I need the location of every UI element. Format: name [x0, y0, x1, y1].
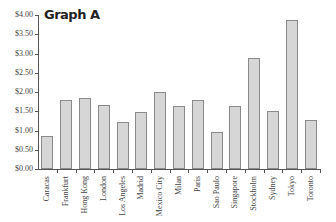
bar-sao-paulo [211, 132, 223, 169]
y-tick [35, 15, 39, 16]
bar-hong-kong [79, 98, 91, 169]
x-tick [245, 169, 246, 173]
y-tick [35, 111, 39, 112]
y-tick [35, 169, 39, 170]
x-tick [320, 169, 321, 173]
x-tick-label: Toronto [306, 176, 315, 220]
x-tick [207, 169, 208, 173]
y-tick [35, 73, 39, 74]
x-tick [188, 169, 189, 173]
y-tick [35, 34, 39, 35]
x-tick [76, 169, 77, 173]
bar-tokyo [286, 20, 298, 169]
y-tick-label: $2.50 [0, 69, 33, 77]
chart-title: Graph A [44, 7, 100, 22]
bar-sydney [267, 111, 279, 169]
bar-london [98, 105, 110, 169]
bar-toronto [305, 120, 317, 169]
x-tick [282, 169, 283, 173]
x-tick [113, 169, 114, 173]
y-tick-label: $1.50 [0, 107, 33, 115]
x-tick-label: Sydney [268, 176, 277, 220]
x-tick-label: Tokyo [287, 176, 296, 220]
y-tick [35, 92, 39, 93]
x-tick-label: Mexico City [155, 176, 164, 220]
y-tick-label: $0.50 [0, 146, 33, 154]
x-tick-label: Singapore [230, 176, 239, 220]
y-tick-label: $3.00 [0, 50, 33, 58]
y-tick-label: $0.00 [0, 165, 33, 173]
x-tick-label: Caracas [42, 176, 51, 220]
bar-milan [173, 106, 185, 169]
bar-frankfurt [60, 100, 72, 169]
x-tick-label: London [99, 176, 108, 220]
x-tick-label: Madrid [136, 176, 145, 220]
x-tick [226, 169, 227, 173]
x-tick-label: Frankfurt [61, 176, 70, 220]
y-tick-label: $3.50 [0, 30, 33, 38]
x-tick [151, 169, 152, 173]
x-tick [57, 169, 58, 173]
bar-mexico-city [154, 92, 166, 169]
x-tick-label: Sao Paulo [212, 176, 221, 220]
x-tick-label: Milan [174, 176, 183, 220]
bar-paris [192, 100, 204, 169]
y-tick-label: $2.00 [0, 88, 33, 96]
bar-singapore [229, 106, 241, 169]
y-tick [35, 150, 39, 151]
x-tick-label: Stockholm [249, 176, 258, 220]
x-axis [38, 169, 320, 170]
x-tick-label: Los Angeles [118, 176, 127, 220]
y-tick-label: $4.00 [0, 11, 33, 19]
bar-caracas [41, 136, 53, 169]
bar-stockholm [248, 58, 260, 169]
x-tick [264, 169, 265, 173]
x-tick [170, 169, 171, 173]
x-tick-label: Paris [193, 176, 202, 220]
x-tick [94, 169, 95, 173]
y-tick [35, 54, 39, 55]
x-tick [301, 169, 302, 173]
x-tick [132, 169, 133, 173]
y-tick [35, 131, 39, 132]
y-tick-label: $1.00 [0, 127, 33, 135]
bar-los-angeles [117, 122, 129, 169]
x-tick-label: Hong Kong [80, 176, 89, 220]
bar-chart: Graph A $0.00$0.50$1.00$1.50$2.00$2.50$3… [0, 0, 336, 222]
bar-madrid [135, 112, 147, 169]
